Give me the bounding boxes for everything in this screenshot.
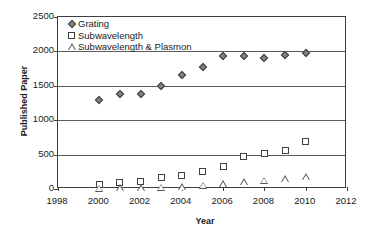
x-tick-mark-2004	[182, 187, 183, 191]
x-tick-mark-1998	[58, 187, 59, 191]
legend-label-2: Subwavelength & Plasmon	[78, 41, 192, 53]
y-tick-mark-500	[54, 155, 58, 156]
x-tick-mark-2006	[223, 187, 224, 191]
legend-label-1: Subwavelength	[78, 30, 143, 42]
y-tick-label-2000: 2000	[18, 45, 54, 55]
y-tick-label-500: 500	[18, 149, 54, 159]
data-point-2-2010	[302, 173, 310, 180]
legend-item-2: Subwavelength & Plasmon	[66, 41, 192, 53]
data-point-1-2009	[282, 147, 289, 154]
legend-item-0: Grating	[66, 18, 192, 30]
x-tick-mark-2002	[141, 187, 142, 191]
data-point-2-2008	[260, 177, 268, 184]
data-point-0-2006	[219, 51, 227, 59]
data-point-0-2008	[260, 53, 268, 61]
open-triangle-icon	[66, 41, 77, 52]
data-point-1-2002	[137, 178, 144, 185]
filled-diamond-icon	[66, 18, 77, 29]
legend-label-0: Grating	[78, 18, 109, 30]
data-point-2-2005	[199, 182, 207, 189]
data-point-0-2007	[240, 52, 248, 60]
data-point-0-2000	[95, 96, 103, 104]
data-point-1-2010	[302, 138, 309, 145]
y-tick-label-0: 0	[18, 183, 54, 193]
x-tick-mark-2010	[306, 187, 307, 191]
x-tick-mark-2000	[99, 187, 100, 191]
gridline-y-1000	[58, 120, 345, 121]
x-tick-label-1998: 1998	[37, 196, 77, 206]
data-point-1-2003	[158, 174, 165, 181]
y-tick-mark-1000	[54, 120, 58, 121]
x-tick-mark-2008	[264, 187, 265, 191]
data-point-2-2003	[157, 184, 165, 191]
y-tick-mark-2000	[54, 51, 58, 52]
y-tick-label-2500: 2500	[18, 11, 54, 21]
gridline-y-1500	[58, 86, 345, 87]
data-point-0-2001	[116, 90, 124, 98]
data-point-2-2007	[240, 178, 248, 185]
data-point-0-2005	[198, 63, 206, 71]
y-tick-label-1000: 1000	[18, 114, 54, 124]
data-point-1-2008	[261, 150, 268, 157]
x-tick-label-2002: 2002	[120, 196, 160, 206]
x-tick-label-2000: 2000	[78, 196, 118, 206]
x-tick-label-2004: 2004	[161, 196, 201, 206]
y-tick-mark-1500	[54, 86, 58, 87]
x-tick-label-2006: 2006	[202, 196, 242, 206]
chart-figure: Published Paper 05001000150020002500 199…	[0, 0, 382, 239]
y-tick-mark-2500	[54, 17, 58, 18]
data-point-1-2004	[178, 172, 185, 179]
data-point-2-2001	[116, 184, 124, 191]
data-point-1-2005	[199, 168, 206, 175]
x-axis-title: Year	[55, 216, 355, 226]
x-tick-label-2010: 2010	[285, 196, 325, 206]
x-tick-label-2008: 2008	[243, 196, 283, 206]
data-point-1-2001	[116, 179, 123, 186]
data-point-0-2004	[178, 71, 186, 79]
data-point-1-2006	[220, 163, 227, 170]
x-tick-mark-2012	[347, 187, 348, 191]
data-point-0-2010	[301, 49, 309, 57]
data-point-0-2002	[136, 90, 144, 98]
x-tick-label-2012: 2012	[326, 196, 366, 206]
chart-legend: GratingSubwavelengthSubwavelength & Plas…	[66, 18, 192, 53]
y-tick-label-1500: 1500	[18, 80, 54, 90]
open-square-icon	[66, 30, 77, 41]
legend-item-1: Subwavelength	[66, 30, 192, 42]
data-point-2-2009	[281, 175, 289, 182]
gridline-y-500	[58, 155, 345, 156]
